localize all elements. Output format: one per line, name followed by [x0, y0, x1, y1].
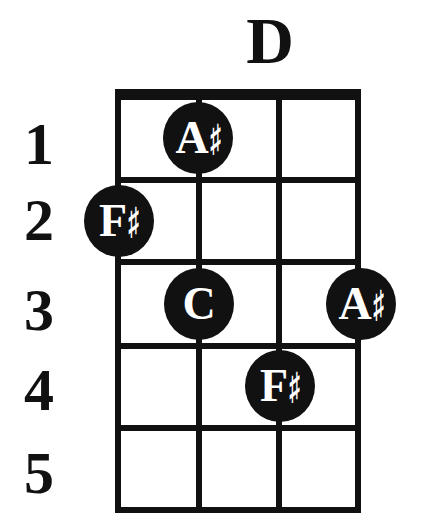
fret-line-4 — [115, 425, 361, 431]
string-1 — [115, 89, 121, 513]
note-marker-f-sharp-fret4: F♯ — [245, 350, 315, 422]
fret-line-5 — [115, 507, 361, 513]
fret-line-2 — [115, 259, 361, 265]
fretboard-grid — [0, 0, 421, 526]
nut — [115, 89, 361, 100]
sharp-icon: ♯ — [289, 367, 297, 405]
fret-line-1 — [115, 177, 361, 183]
sharp-icon: ♯ — [373, 285, 381, 323]
string-3 — [276, 89, 282, 513]
note-letter: F — [260, 363, 288, 409]
note-letter: C — [182, 281, 215, 327]
note-letter: F — [99, 198, 127, 244]
sharp-icon: ♯ — [128, 202, 136, 240]
note-letter: A — [175, 115, 208, 161]
sharp-icon: ♯ — [210, 119, 218, 157]
note-marker-f-sharp-fret2: F♯ — [84, 185, 154, 257]
fret-line-3 — [115, 343, 361, 349]
note-letter: A — [338, 281, 371, 327]
note-marker-c-fret3: C — [164, 268, 234, 340]
note-marker-a-sharp-fret1: A♯ — [163, 102, 233, 174]
note-marker-a-sharp-fret3: A♯ — [326, 268, 396, 340]
